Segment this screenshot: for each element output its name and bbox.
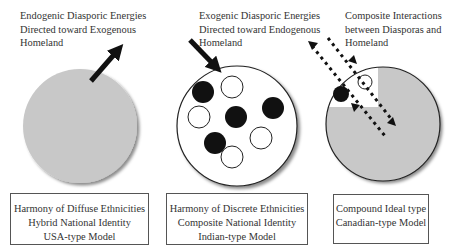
box-line: Harmony of Discrete Ethnicities xyxy=(167,202,307,216)
inward-arrow-icon xyxy=(190,40,216,67)
compound-circle xyxy=(320,60,440,181)
box-line: Harmony of Diffuse Ethnicities xyxy=(11,202,148,216)
model-box-canada: Compound Ideal type Canadian-type Model xyxy=(333,194,429,244)
model-box-india: Harmony of Discrete Ethnicities Composit… xyxy=(166,193,308,245)
box-line: Indian-type Model xyxy=(167,230,307,244)
model-box-usa: Harmony of Diffuse Ethnicities Hybrid Na… xyxy=(10,193,149,245)
diffuse-circle xyxy=(23,69,137,183)
box-line: Compound Ideal type xyxy=(334,202,428,216)
box-line: Composite National Identity xyxy=(167,216,307,230)
box-line: Hybrid National Identity xyxy=(11,216,148,230)
box-line: Canadian-type Model xyxy=(334,216,428,230)
box-line: USA-type Model xyxy=(11,230,148,244)
discrete-circle xyxy=(177,66,297,186)
